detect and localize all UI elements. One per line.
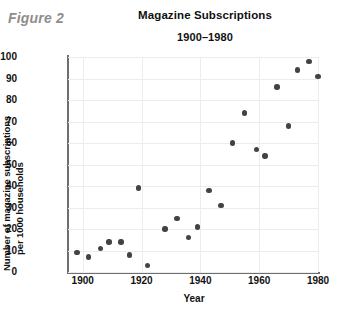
scatter-point (186, 235, 191, 240)
gridline-horizontal (68, 208, 318, 209)
y-axis-tick-label: 50 (0, 160, 17, 170)
gridline-horizontal (68, 272, 318, 273)
scatter-point (136, 185, 141, 190)
scatter-point (218, 203, 223, 208)
y-axis-tick-label: 80 (0, 95, 17, 105)
x-axis-tick-label: 1940 (178, 276, 222, 286)
y-axis-tick-label: 90 (0, 74, 17, 84)
plot-area (68, 57, 318, 272)
gridline-vertical (83, 57, 84, 272)
scatter-point (195, 224, 200, 229)
chart-subtitle: 1900–1980 (90, 31, 320, 43)
gridline-horizontal (68, 100, 318, 101)
gridline-horizontal (68, 79, 318, 80)
scatter-point (86, 254, 91, 259)
figure-container: Figure 2 Magazine Subscriptions 1900–198… (0, 0, 339, 312)
y-axis-tick-label: 0 (0, 267, 17, 277)
scatter-point (295, 67, 300, 72)
scatter-point (162, 226, 167, 231)
gridline-horizontal (68, 165, 318, 166)
figure-label: Figure 2 (8, 10, 64, 26)
gridline-vertical (142, 57, 143, 272)
scatter-point (262, 153, 267, 158)
y-axis-tick-label: 10 (0, 246, 17, 256)
scatter-point (98, 246, 103, 251)
y-axis-tick-label: 100 (0, 52, 17, 62)
x-axis-tick-label: 1960 (237, 276, 281, 286)
y-axis-tick-label: 70 (0, 117, 17, 127)
scatter-point (230, 140, 235, 145)
y-axis-tick-label: 30 (0, 203, 17, 213)
gridline-vertical (318, 57, 319, 272)
gridline-vertical (259, 57, 260, 272)
x-axis-tick-label: 1900 (61, 276, 105, 286)
scatter-point (145, 263, 150, 268)
gridline-horizontal (68, 143, 318, 144)
scatter-point (174, 216, 179, 221)
scatter-point (254, 147, 259, 152)
scatter-point (127, 252, 132, 257)
y-axis-tick-label: 40 (0, 181, 17, 191)
x-axis-tick-label: 1980 (296, 276, 339, 286)
y-axis-tick-label: 60 (0, 138, 17, 148)
scatter-point (206, 188, 211, 193)
gridline-horizontal (68, 251, 318, 252)
scatter-point (315, 74, 320, 79)
gridline-horizontal (68, 122, 318, 123)
x-axis-label: Year (68, 293, 320, 304)
scatter-point (242, 110, 247, 115)
scatter-point (106, 239, 111, 244)
chart-title: Magazine Subscriptions (90, 9, 320, 21)
x-axis-tick-label: 1920 (120, 276, 164, 286)
scatter-point (306, 59, 311, 64)
gridline-horizontal (68, 57, 318, 58)
scatter-point (74, 250, 79, 255)
y-axis-tick-label: 20 (0, 224, 17, 234)
gridline-horizontal (68, 229, 318, 230)
gridline-horizontal (68, 186, 318, 187)
gridline-vertical (200, 57, 201, 272)
scatter-point (286, 123, 291, 128)
scatter-point (118, 239, 123, 244)
scatter-point (274, 84, 279, 89)
